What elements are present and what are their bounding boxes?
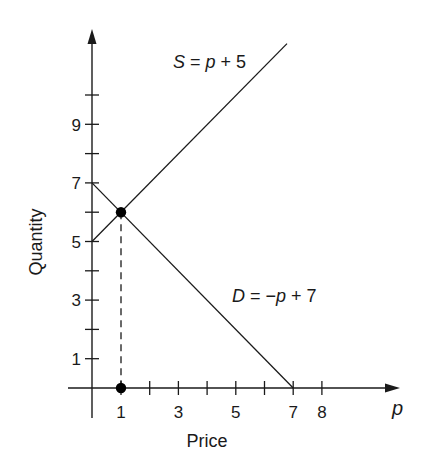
x-tick-label: 1 [116,404,125,421]
y-axis-label: Quantity [27,208,45,275]
supply-constant: + 5 [216,52,247,72]
equilibrium-price-point [116,383,126,393]
y-tick-label: 1 [72,351,81,368]
y-axis-arrow-icon [88,29,97,44]
demand-symbol: D [232,286,245,306]
supply-symbol: S [173,52,185,72]
price-variable: p [206,52,216,72]
x-tick-label: 7 [288,404,297,421]
equals-sign: = [185,52,206,72]
y-tick-label: 5 [72,234,81,251]
price-variable: p [276,286,286,306]
y-tick-label: 9 [72,117,81,134]
demand-constant: + 7 [286,286,317,306]
equals-minus-sign: = − [245,286,276,306]
equilibrium-point [116,207,126,217]
y-tick-label: 3 [72,292,81,309]
x-axis-label: Price [186,432,227,450]
x-tick-label: 8 [317,404,326,421]
x-tick-label: 3 [174,404,183,421]
x-axis-arrow-icon [385,384,400,393]
supply-equation-label: S = p + 5 [173,53,246,71]
x-variable-label: p [392,398,403,418]
demand-equation-label: D = −p + 7 [232,287,317,305]
y-tick-label: 7 [72,175,81,192]
x-tick-label: 5 [231,404,240,421]
